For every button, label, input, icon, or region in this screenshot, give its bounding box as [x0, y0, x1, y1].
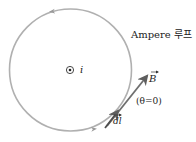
current-out-of-page-icon [66, 66, 73, 73]
length-element-label: dl [113, 116, 122, 126]
ampere-loop-diagram [0, 0, 196, 142]
current-label: i [80, 64, 83, 75]
ampere-loop-label: Ampere 루프 [131, 26, 192, 41]
field-vector-label: B [149, 73, 156, 84]
angle-label: (θ=0) [136, 96, 162, 106]
